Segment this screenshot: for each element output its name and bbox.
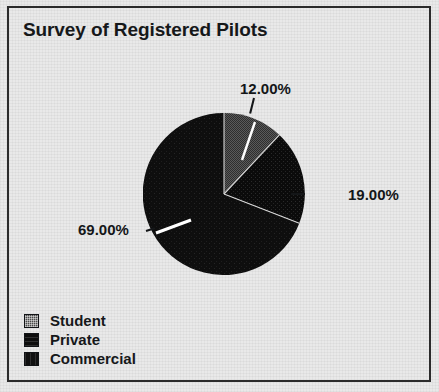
legend-label-commercial: Commercial	[50, 350, 136, 367]
legend-swatch-student-icon	[24, 314, 39, 328]
legend-label-private: Private	[50, 331, 100, 348]
legend-label-student: Student	[50, 312, 106, 329]
data-label-student: 12.00%	[240, 80, 291, 97]
page-title: Survey of Registered Pilots	[23, 19, 267, 41]
legend-item-student[interactable]: Student	[24, 311, 136, 330]
data-label-private: 19.00%	[348, 186, 399, 203]
legend-item-private[interactable]: Private	[24, 330, 136, 349]
pie-svg	[143, 113, 305, 275]
legend-swatch-commercial-icon	[24, 352, 39, 366]
legend-swatch-private-icon	[24, 333, 39, 347]
legend-item-commercial[interactable]: Commercial	[24, 349, 136, 368]
data-label-commercial: 69.00%	[78, 221, 129, 238]
chart-canvas: Survey of Registered Pilots	[0, 0, 439, 392]
chart-legend: Student Private Commercial	[24, 311, 136, 368]
pie-chart	[143, 113, 305, 275]
